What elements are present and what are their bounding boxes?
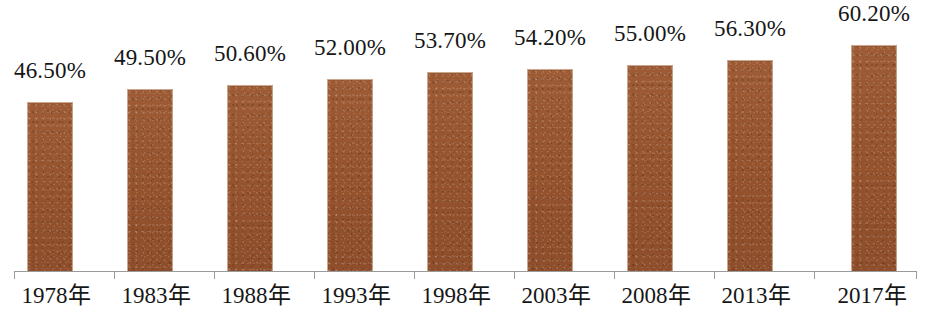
bar-value-label: 50.60% bbox=[200, 42, 300, 65]
bar-value-label: 60.20% bbox=[824, 2, 924, 25]
x-axis-tick-label: 1983年 bbox=[106, 281, 206, 311]
x-axis-tick bbox=[314, 272, 315, 279]
bar-group: 55.00% bbox=[600, 0, 700, 272]
plot-area: 46.50% 49.50% 50.60% 52.00% 53.70% 54.20… bbox=[0, 0, 929, 272]
bar-group: 46.50% bbox=[0, 0, 100, 272]
bar[interactable] bbox=[27, 102, 73, 272]
bar-group: 49.50% bbox=[100, 0, 200, 272]
x-axis-tick-label: 2003年 bbox=[506, 281, 606, 311]
x-axis-tick bbox=[114, 272, 115, 279]
x-axis-tick-label: 2008年 bbox=[606, 281, 706, 311]
x-axis-tick-label: 1993年 bbox=[306, 281, 406, 311]
bar[interactable] bbox=[851, 45, 897, 272]
x-axis-line bbox=[14, 271, 917, 272]
bar-group: 52.00% bbox=[300, 0, 400, 272]
x-axis-labels: 1978年 1983年 1988年 1993年 1998年 2003年 2008… bbox=[0, 281, 929, 314]
bar-group: 56.30% bbox=[700, 0, 800, 272]
bar[interactable] bbox=[127, 89, 173, 272]
x-axis-tick bbox=[714, 272, 715, 279]
bar[interactable] bbox=[627, 65, 673, 272]
bar-value-label: 49.50% bbox=[100, 46, 200, 69]
bar-chart: 46.50% 49.50% 50.60% 52.00% 53.70% 54.20… bbox=[0, 0, 929, 314]
x-axis-tick-label: 2017年 bbox=[822, 281, 922, 311]
bar[interactable] bbox=[327, 79, 373, 272]
bar-value-label: 53.70% bbox=[400, 29, 500, 52]
bar-value-label: 52.00% bbox=[300, 36, 400, 59]
bar-group: 60.20% bbox=[824, 0, 924, 272]
x-axis-tick-label: 1978年 bbox=[6, 281, 106, 311]
bar[interactable] bbox=[427, 72, 473, 272]
x-axis-tick bbox=[514, 272, 515, 279]
bar[interactable] bbox=[227, 85, 273, 272]
bar-value-label: 54.20% bbox=[500, 26, 600, 49]
bar-group: 54.20% bbox=[500, 0, 600, 272]
x-axis-tick-label: 2013年 bbox=[706, 281, 806, 311]
bar[interactable] bbox=[527, 69, 573, 272]
bar-value-label: 55.00% bbox=[600, 22, 700, 45]
bar-group: 53.70% bbox=[400, 0, 500, 272]
x-axis-tick bbox=[814, 272, 815, 279]
x-axis-tick-label: 1998年 bbox=[406, 281, 506, 311]
bar-group: 50.60% bbox=[200, 0, 300, 272]
x-axis-tick-label: 1988年 bbox=[206, 281, 306, 311]
bar[interactable] bbox=[727, 60, 773, 272]
x-axis-tick bbox=[916, 272, 917, 279]
bar-value-label: 56.30% bbox=[700, 17, 800, 40]
x-axis-tick bbox=[214, 272, 215, 279]
x-axis-tick bbox=[414, 272, 415, 279]
x-axis-tick bbox=[14, 272, 15, 279]
bar-value-label: 46.50% bbox=[0, 59, 100, 82]
x-axis-tick bbox=[614, 272, 615, 279]
